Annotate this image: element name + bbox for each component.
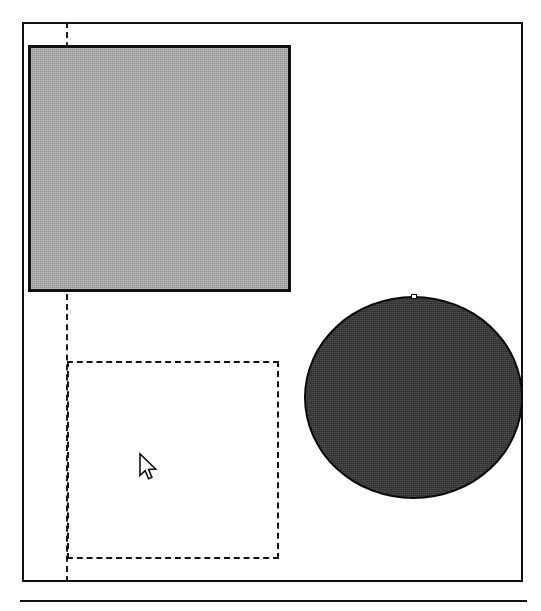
filled-rectangle-shape[interactable] — [28, 45, 291, 292]
figure-canvas — [0, 0, 541, 611]
dashed-rectangle-shape[interactable] — [67, 361, 279, 559]
bottom-horizontal-rule — [20, 600, 527, 602]
ellipse-body — [304, 296, 523, 499]
filled-ellipse-shape[interactable] — [304, 296, 523, 499]
ellipse-apex-handle-icon — [411, 294, 417, 299]
